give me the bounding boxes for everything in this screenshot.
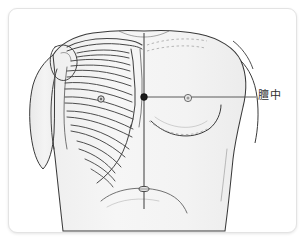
figure-frame: 膻中 xyxy=(8,8,297,233)
nipple-marker xyxy=(184,94,191,101)
rib-acupoint-marker xyxy=(98,96,104,102)
torso-anatomical-illustration xyxy=(9,9,297,233)
danzhong-acupoint-marker[interactable] xyxy=(141,94,148,101)
navel-marker xyxy=(139,186,149,191)
